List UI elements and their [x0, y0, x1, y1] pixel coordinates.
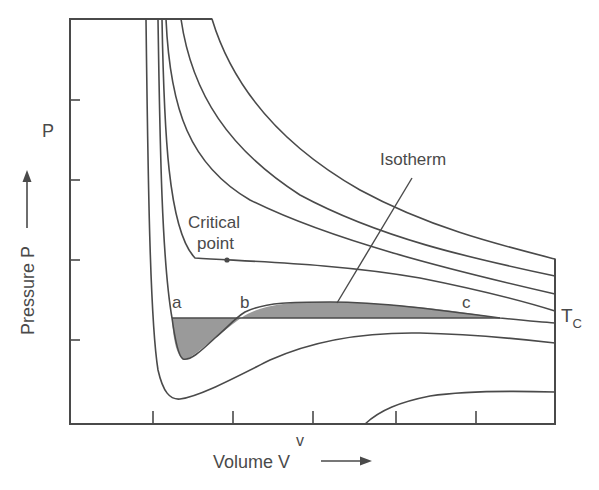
point-a-label: a — [172, 293, 182, 312]
y-axis-ticks — [70, 100, 80, 340]
y-axis-arrow — [23, 170, 32, 228]
x-axis-arrow — [321, 457, 372, 466]
x-inner-label: v — [296, 432, 304, 449]
critical-point-label-line2: point — [197, 234, 234, 253]
isotherm-lowest — [365, 391, 555, 424]
y-axis-label: Pressure P — [18, 246, 38, 335]
plot-frame — [70, 19, 555, 424]
x-axis-label: Volume V — [213, 452, 290, 472]
x-axis-ticks — [153, 411, 476, 424]
critical-point-label-line1: Critical — [188, 213, 240, 232]
isotherm-highest — [212, 19, 555, 259]
point-b-label: b — [240, 293, 249, 312]
critical-temperature-label: TC — [561, 305, 582, 331]
point-c-label: c — [462, 293, 471, 312]
critical-point-marker — [224, 257, 229, 262]
pv-diagram: Isotherm Critical point a b c TC P Press… — [0, 0, 599, 490]
y-inner-label: P — [42, 121, 54, 141]
svg-text:Pressure P: Pressure P — [18, 246, 38, 335]
isotherm-high-2 — [181, 19, 555, 276]
isotherm-label: Isotherm — [380, 150, 446, 169]
